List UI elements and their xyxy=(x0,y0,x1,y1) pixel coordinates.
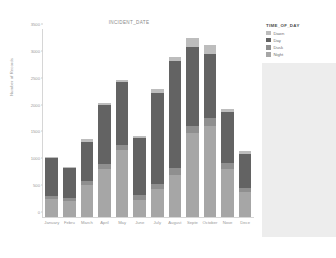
bar-segment-day[interactable] xyxy=(116,82,129,144)
y-axis-label: Number of Records xyxy=(9,26,14,96)
y-axis-tick: 3500 xyxy=(31,22,40,27)
stacked-bar[interactable] xyxy=(151,89,164,217)
x-axis-tick-label: August xyxy=(168,220,181,225)
y-axis-tick-mark xyxy=(41,24,43,25)
x-axis-tick-label: Nove xyxy=(223,220,233,225)
bar-group[interactable]: July xyxy=(148,29,166,217)
bar-segment-night[interactable] xyxy=(186,133,199,217)
bar-segment-day[interactable] xyxy=(133,138,146,195)
legend-swatch-icon xyxy=(266,31,271,36)
bar-group[interactable]: January xyxy=(43,29,61,217)
legend-item-dawn[interactable]: Dawn xyxy=(266,31,332,36)
y-axis-tick: 3000 xyxy=(31,48,40,53)
bar-segment-night[interactable] xyxy=(81,185,94,217)
y-axis-tick: 1000 xyxy=(31,156,40,161)
y-axis-tick: 1500 xyxy=(31,129,40,134)
bar-segment-night[interactable] xyxy=(98,169,111,217)
x-axis-tick-label: June xyxy=(135,220,144,225)
bar-segment-dusk[interactable] xyxy=(186,126,199,134)
x-axis-tick-label: October xyxy=(203,220,218,225)
x-axis-tick-label: Dece xyxy=(240,220,250,225)
legend-item-dusk[interactable]: Dusk xyxy=(266,45,332,50)
stacked-bar[interactable] xyxy=(221,109,234,217)
bar-segment-day[interactable] xyxy=(81,142,94,182)
legend-swatch-icon xyxy=(266,38,271,43)
y-axis-tick: 2500 xyxy=(31,75,40,80)
legend-header: TIME_OF_DAY DawnDayDuskNight xyxy=(262,20,336,63)
bar-segment-day[interactable] xyxy=(239,154,252,188)
legend-item-day[interactable]: Day xyxy=(266,38,332,43)
x-axis-tick-label: January xyxy=(44,220,59,225)
stacked-bar[interactable] xyxy=(239,151,252,217)
y-axis-tick: 2000 xyxy=(31,102,40,107)
legend-swatch-icon xyxy=(266,52,271,57)
legend-item-night[interactable]: Night xyxy=(266,52,332,57)
stacked-bar[interactable] xyxy=(63,167,76,217)
bar-segment-dawn[interactable] xyxy=(204,45,217,54)
bar-segment-night[interactable] xyxy=(116,150,129,217)
bar-group[interactable]: June xyxy=(131,29,149,217)
bar-group[interactable]: April xyxy=(96,29,114,217)
x-axis-tick-label: July xyxy=(154,220,161,225)
legend-title: TIME_OF_DAY xyxy=(266,23,332,28)
y-axis-tick: 500 xyxy=(33,183,40,188)
legend-item-label: Dawn xyxy=(274,31,285,36)
bar-segment-night[interactable] xyxy=(239,192,252,217)
stacked-bar[interactable] xyxy=(204,45,217,217)
x-axis-tick-label: April xyxy=(100,220,108,225)
bar-segment-dusk[interactable] xyxy=(204,118,217,126)
stacked-bar[interactable] xyxy=(81,139,94,217)
legend-swatch-icon xyxy=(266,45,271,50)
x-axis-tick-label: May xyxy=(118,220,126,225)
bar-group[interactable]: Dece xyxy=(236,29,254,217)
chart-panel: INCIDENT_DATE Number of Records 05001000… xyxy=(0,0,258,258)
stacked-bar[interactable] xyxy=(186,38,199,217)
bar-segment-day[interactable] xyxy=(204,54,217,118)
bar-segment-night[interactable] xyxy=(221,169,234,217)
y-axis-tick: 0 xyxy=(38,210,40,215)
bar-group[interactable]: October xyxy=(201,29,219,217)
bar-segment-night[interactable] xyxy=(169,175,182,217)
stacked-bar[interactable] xyxy=(133,136,146,217)
x-axis-tick-label: Septe xyxy=(187,220,198,225)
bar-group[interactable]: Septe xyxy=(184,29,202,217)
stacked-bar[interactable] xyxy=(98,103,111,217)
bar-segment-day[interactable] xyxy=(63,168,76,198)
plot-area: 0500100015002000250030003500 JanuaryFebr… xyxy=(42,29,254,218)
stacked-bar[interactable] xyxy=(116,80,129,217)
chart-screen: INCIDENT_DATE Number of Records 05001000… xyxy=(0,0,336,258)
x-axis-tick-label: March xyxy=(81,220,93,225)
bar-segment-day[interactable] xyxy=(98,105,111,164)
bar-segment-night[interactable] xyxy=(151,189,164,217)
legend-panel: TIME_OF_DAY DawnDayDuskNight xyxy=(262,20,336,237)
bar-segment-day[interactable] xyxy=(221,112,234,162)
legend-item-label: Night xyxy=(274,52,284,57)
bar-group[interactable]: March xyxy=(78,29,96,217)
bar-segment-day[interactable] xyxy=(169,61,182,168)
bar-series-group: JanuaryFebruMarchAprilMayJuneJulyAugustS… xyxy=(43,29,254,217)
bar-group[interactable]: Nove xyxy=(219,29,237,217)
bar-segment-dawn[interactable] xyxy=(186,38,199,48)
stacked-bar[interactable] xyxy=(45,157,58,217)
bar-segment-night[interactable] xyxy=(63,201,76,217)
bar-segment-night[interactable] xyxy=(45,199,58,217)
legend-item-label: Dusk xyxy=(274,45,284,50)
bar-group[interactable]: Febru xyxy=(61,29,79,217)
bar-segment-day[interactable] xyxy=(151,93,164,184)
bar-segment-day[interactable] xyxy=(45,158,58,195)
legend-items: DawnDayDuskNight xyxy=(266,31,332,58)
bar-group[interactable]: May xyxy=(113,29,131,217)
stacked-bar[interactable] xyxy=(169,57,182,217)
bar-group[interactable]: August xyxy=(166,29,184,217)
bar-segment-night[interactable] xyxy=(133,200,146,217)
bar-segment-day[interactable] xyxy=(186,47,199,125)
bar-segment-night[interactable] xyxy=(204,126,217,217)
x-axis-tick-label: Febru xyxy=(64,220,75,225)
legend-item-label: Day xyxy=(274,38,281,43)
